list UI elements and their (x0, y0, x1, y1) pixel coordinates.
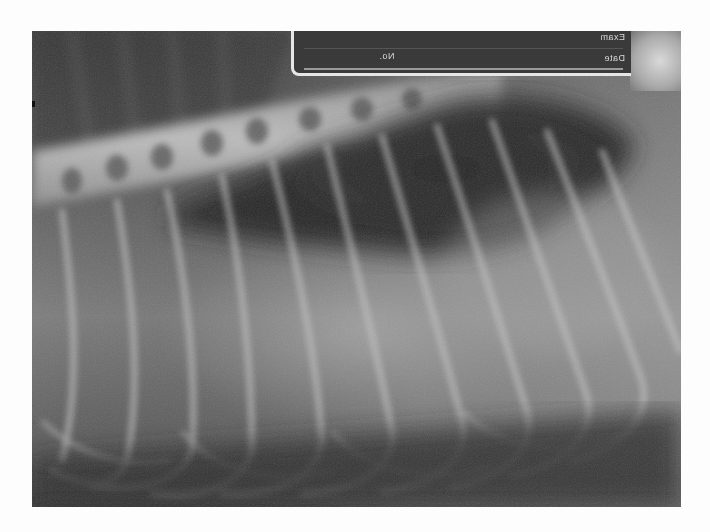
label-row-divider (304, 48, 623, 49)
overexposed-area (630, 31, 681, 91)
film-marker (32, 101, 35, 107)
xray-film: Exam No. Date (32, 31, 681, 507)
page: Exam No. Date (0, 0, 710, 532)
film-id-label: Exam No. Date (291, 31, 631, 76)
label-number-field: No. (379, 51, 395, 61)
label-date-field: Date (604, 53, 625, 63)
label-bottom-line (304, 68, 623, 70)
label-exam-field: Exam (600, 32, 625, 42)
xray-graphic (32, 31, 681, 507)
